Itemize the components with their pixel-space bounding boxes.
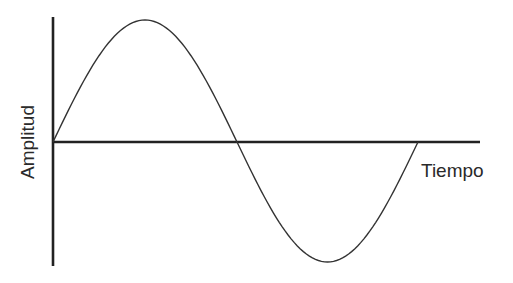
plot-area: Amplitud Tiempo	[0, 0, 513, 283]
y-axis-label: Amplitud	[17, 105, 38, 179]
x-axis-label: Tiempo	[421, 160, 484, 181]
sine-wave-diagram: Amplitud Tiempo	[0, 0, 513, 283]
